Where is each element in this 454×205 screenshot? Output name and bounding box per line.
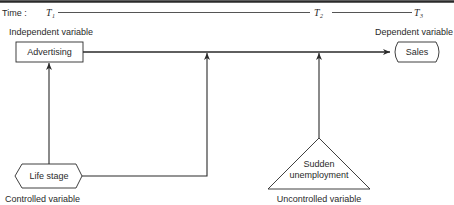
time-label: Time : — [2, 8, 27, 18]
svg-text:3: 3 — [419, 13, 423, 19]
svg-text:2: 2 — [320, 13, 323, 19]
controlled-variable-label: Controlled variable — [5, 194, 80, 204]
sales-label: Sales — [406, 47, 429, 57]
uncontrolled-variable-label: Uncontrolled variable — [277, 194, 362, 204]
time-point-t1: T 1 — [46, 7, 55, 19]
lifestage-label: Life stage — [29, 171, 68, 181]
time-point-t3: T 3 — [414, 7, 423, 19]
dependent-variable-label: Dependent variable — [375, 27, 453, 37]
svg-text:1: 1 — [52, 13, 55, 19]
advertising-label: Advertising — [27, 47, 72, 57]
unemployment-label-line1: Sudden — [303, 159, 334, 169]
independent-variable-label: Independent variable — [9, 27, 93, 37]
lifestage-to-relationship-arrow — [82, 53, 207, 176]
unemployment-label-line2: unemployment — [289, 170, 349, 180]
causal-diagram: Time : T 1 T 2 T 3 Independent variable … — [0, 0, 454, 205]
time-point-t2: T 2 — [314, 7, 323, 19]
